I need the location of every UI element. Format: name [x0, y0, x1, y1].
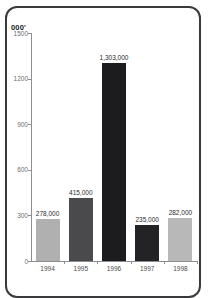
bar	[135, 225, 159, 261]
y-tick-mark	[28, 33, 31, 34]
bar-value-label: 278,000	[19, 210, 75, 218]
bar-value-label: 1,303,000	[86, 54, 142, 62]
y-tick-label-text: 900	[17, 121, 28, 128]
y-tick-mark	[28, 261, 31, 262]
x-tick-mark	[197, 261, 198, 264]
y-tick-mark	[28, 79, 31, 80]
y-tick-label: 1500	[6, 30, 28, 37]
bar	[168, 218, 192, 261]
y-tick-label: 0	[6, 258, 28, 265]
x-tick-label: 1997	[131, 265, 164, 272]
y-tick-label-text: 1200	[14, 75, 28, 82]
x-tick-mark	[64, 261, 65, 264]
x-tick-label: 1995	[64, 265, 97, 272]
x-tick-label: 1996	[97, 265, 130, 272]
y-tick-mark	[28, 170, 31, 171]
x-tick-mark	[164, 261, 165, 264]
y-axis-line	[31, 33, 32, 261]
bar-value-label: 235,000	[119, 216, 175, 224]
x-tick-mark	[97, 261, 98, 264]
y-tick-label-text: 1500	[14, 30, 28, 37]
bar-value-label: 415,000	[53, 189, 109, 197]
bar	[36, 219, 60, 261]
y-tick-label: 1200	[6, 75, 28, 82]
y-tick-label: 900	[6, 121, 28, 128]
y-tick-label: 600	[6, 166, 28, 173]
bar-value-label: 282,000	[152, 209, 208, 217]
y-tick-mark	[28, 124, 31, 125]
x-tick-label: 1998	[164, 265, 197, 272]
y-tick-label-text: 600	[17, 166, 28, 173]
x-tick-mark	[131, 261, 132, 264]
x-axis-line	[31, 261, 197, 262]
bar	[69, 198, 93, 261]
bar	[102, 63, 126, 261]
x-tick-label: 1994	[31, 265, 64, 272]
